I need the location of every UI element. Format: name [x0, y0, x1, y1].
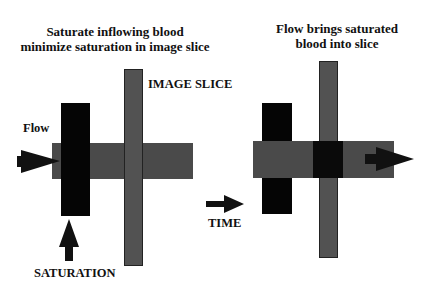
time-arrow-icon: [206, 194, 246, 214]
right-title: Flow brings saturated blood into slice: [262, 21, 412, 51]
flow-label: Flow: [23, 121, 49, 136]
left-title: Saturate inflowing blood minimize satura…: [14, 24, 216, 54]
image-slice-left: [124, 69, 143, 266]
left-title-line1: Saturate inflowing blood: [14, 24, 216, 39]
saturation-arrow-icon: [58, 219, 80, 262]
right-title-line2: blood into slice: [262, 36, 412, 51]
time-label: TIME: [208, 216, 241, 231]
saturation-label: SATURATION: [34, 266, 116, 281]
left-title-line2: minimize saturation in image slice: [14, 39, 216, 54]
flow-arrow-icon: [16, 148, 62, 176]
right-title-line1: Flow brings saturated: [262, 21, 412, 36]
image-slice-label: IMAGE SLICE: [148, 77, 232, 92]
flow-arrow-right-icon: [364, 146, 416, 174]
diagram-canvas: Saturate inflowing blood minimize satura…: [0, 0, 432, 291]
saturation-band-left: [61, 103, 90, 216]
saturated-blood-in-slice: [313, 141, 343, 178]
